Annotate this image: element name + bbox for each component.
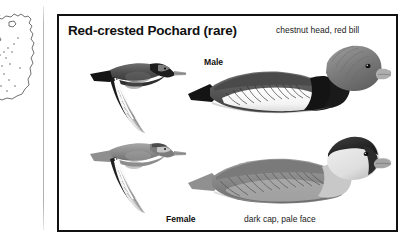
field-guide-page: Red-crested Pochard (rare) chestnut head… (0, 0, 413, 245)
species-plate: Red-crested Pochard (rare) chestnut head… (57, 14, 398, 232)
annotation-male-note: chestnut head, red bill (276, 25, 359, 35)
illustration-flying-male (88, 55, 188, 137)
illustration-swimming-female (186, 123, 391, 215)
vertical-divider (43, 6, 44, 230)
illustration-flying-female (88, 135, 188, 217)
illustration-swimming-male (186, 36, 391, 128)
distribution-map-fragment (0, 8, 44, 108)
annotation-female-note: dark cap, pale face (244, 214, 316, 224)
